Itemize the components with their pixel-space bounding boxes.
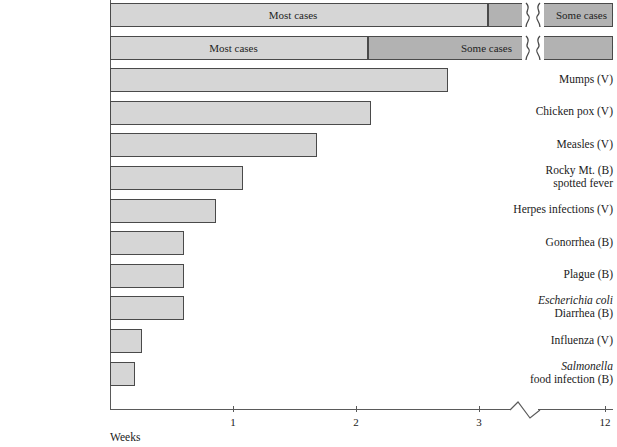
bar-segment-7-0: [110, 231, 184, 255]
x-tick-2: [356, 406, 357, 412]
bar-segment-label: Most cases: [269, 3, 318, 27]
bar-segment-5-0: [110, 166, 243, 190]
bar-segment-4-0: [110, 133, 317, 157]
bar-segment-6-0: [110, 199, 216, 223]
axis-break-icon: [508, 400, 542, 420]
x-axis-title: Weeks: [110, 431, 140, 443]
bar-segment-10-0: [110, 329, 142, 353]
bar-segment-1-2: [538, 36, 613, 60]
x-tick-1: [233, 406, 234, 412]
bar-segment-2-0: [110, 68, 448, 92]
x-tick-label-2: 2: [344, 416, 368, 428]
bar-segment-3-0: [110, 101, 371, 125]
bar-segment-11-0: [110, 362, 135, 386]
bar-segment-label: Some cases: [556, 3, 607, 27]
x-tick-label-1: 1: [221, 416, 245, 428]
x-tick-label-3: 3: [467, 416, 491, 428]
x-axis-line-right: [538, 409, 613, 410]
bar-segment-8-0: [110, 264, 184, 288]
bar-segment-0-1: [488, 3, 525, 27]
bar-segment-label: Some cases: [461, 36, 512, 60]
plot-area: 12312 Most casesSome casesMost casesSome…: [110, 0, 613, 447]
x-tick-12: [605, 406, 606, 412]
x-tick-3: [479, 406, 480, 412]
bar-segment-9-0: [110, 296, 184, 320]
x-tick-label-12: 12: [593, 416, 617, 428]
x-axis-line-left: [110, 409, 510, 410]
bar-break-icon: [522, 34, 544, 62]
bar-break-icon: [522, 1, 544, 29]
bar-segment-label: Most cases: [209, 36, 258, 60]
